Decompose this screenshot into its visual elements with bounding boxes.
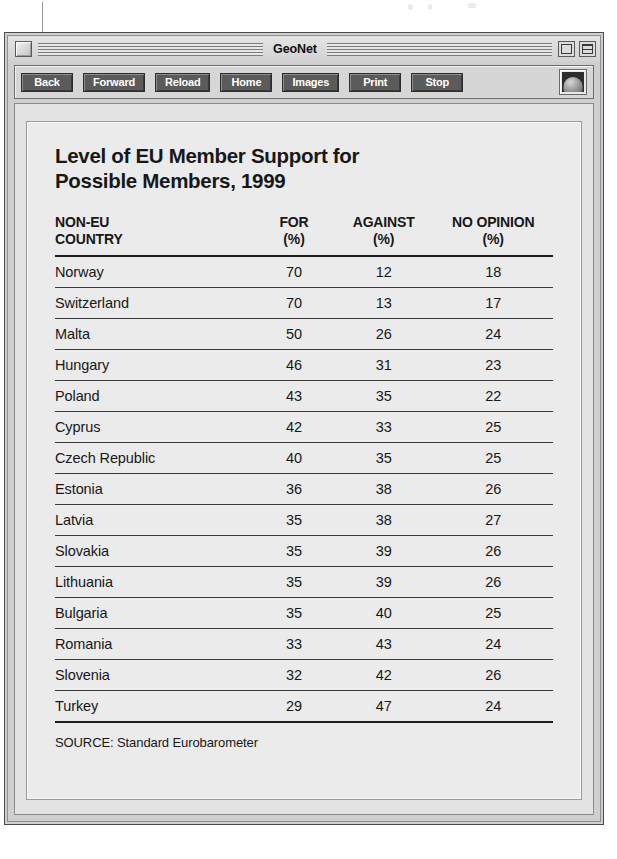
column-header-for-line2: (%) (254, 231, 334, 248)
back-button[interactable]: Back (21, 73, 73, 92)
source-note: SOURCE: Standard Eurobarometer (55, 735, 553, 750)
cell-for: 70 (254, 287, 334, 318)
cell-against: 31 (334, 349, 434, 380)
cell-no-opinion: 24 (433, 628, 553, 659)
window-titlebar[interactable]: GeoNet (8, 36, 600, 62)
cell-for: 50 (254, 318, 334, 349)
cell-for: 35 (254, 597, 334, 628)
cell-country: Estonia (55, 473, 254, 504)
cell-no-opinion: 27 (433, 504, 553, 535)
table-row: Hungary463123 (55, 349, 553, 380)
cell-for: 35 (254, 566, 334, 597)
column-header-no-opinion: NO OPINION (%) (433, 214, 553, 256)
table-row: Estonia363826 (55, 473, 553, 504)
document-card: Level of EU Member Support for Possible … (26, 121, 582, 800)
column-header-for-line1: FOR (279, 214, 308, 230)
cell-against: 39 (334, 566, 434, 597)
cell-against: 33 (334, 411, 434, 442)
cell-country: Norway (55, 256, 254, 288)
cell-against: 35 (334, 442, 434, 473)
cell-country: Bulgaria (55, 597, 254, 628)
cell-country: Switzerland (55, 287, 254, 318)
home-button[interactable]: Home (220, 73, 272, 92)
cell-no-opinion: 26 (433, 473, 553, 504)
column-header-for: FOR (%) (254, 214, 334, 256)
cell-country: Slovenia (55, 659, 254, 690)
cell-against: 39 (334, 535, 434, 566)
cell-country: Turkey (55, 690, 254, 722)
cell-against: 26 (334, 318, 434, 349)
browser-page-area: Level of EU Member Support for Possible … (14, 103, 594, 815)
table-header-row: NON-EU COUNTRY FOR (%) AGAINST (%) NO (55, 214, 553, 256)
titlebar-stripes-left (38, 43, 263, 56)
table-row: Poland433522 (55, 380, 553, 411)
cell-against: 42 (334, 659, 434, 690)
globe-dome-icon[interactable] (559, 69, 587, 95)
cell-no-opinion: 17 (433, 287, 553, 318)
cell-country: Romania (55, 628, 254, 659)
cell-for: 43 (254, 380, 334, 411)
globe-dome-icon-field (562, 72, 584, 92)
close-box-icon[interactable] (15, 41, 32, 57)
browser-toolbar: Back Forward Reload Home Images Print St… (14, 65, 594, 99)
cell-for: 35 (254, 504, 334, 535)
table-row: Romania334324 (55, 628, 553, 659)
table-row: Malta502624 (55, 318, 553, 349)
zoom-box-icon[interactable] (558, 41, 575, 57)
table-row: Norway701218 (55, 256, 553, 288)
column-header-against: AGAINST (%) (334, 214, 434, 256)
page-title: Level of EU Member Support for Possible … (55, 144, 455, 194)
support-data-table: NON-EU COUNTRY FOR (%) AGAINST (%) NO (55, 214, 553, 723)
cell-no-opinion: 26 (433, 535, 553, 566)
titlebar-stripes-right (327, 43, 552, 56)
reload-button[interactable]: Reload (155, 73, 210, 92)
table-row: Lithuania353926 (55, 566, 553, 597)
cell-for: 35 (254, 535, 334, 566)
column-header-country-line2: COUNTRY (55, 231, 254, 248)
column-header-against-line2: (%) (334, 231, 434, 248)
column-header-country-line1: NON-EU (55, 214, 109, 230)
cell-no-opinion: 26 (433, 566, 553, 597)
cell-against: 38 (334, 473, 434, 504)
scan-artifact-speck (408, 4, 413, 10)
table-row: Turkey294724 (55, 690, 553, 722)
cell-country: Latvia (55, 504, 254, 535)
cell-no-opinion: 22 (433, 380, 553, 411)
table-row: Bulgaria354025 (55, 597, 553, 628)
globe-dome-icon-shape (564, 77, 583, 92)
collapse-box-icon[interactable] (579, 41, 596, 57)
table-row: Slovakia353926 (55, 535, 553, 566)
window-title: GeoNet (269, 42, 321, 56)
cell-for: 46 (254, 349, 334, 380)
cell-for: 29 (254, 690, 334, 722)
cell-no-opinion: 25 (433, 597, 553, 628)
stop-button[interactable]: Stop (411, 73, 463, 92)
cell-against: 13 (334, 287, 434, 318)
cell-country: Poland (55, 380, 254, 411)
cell-country: Czech Republic (55, 442, 254, 473)
images-button[interactable]: Images (282, 73, 339, 92)
cell-no-opinion: 26 (433, 659, 553, 690)
page-title-line1: Level of EU Member Support for (55, 144, 359, 167)
cell-for: 36 (254, 473, 334, 504)
table-row: Latvia353827 (55, 504, 553, 535)
forward-button[interactable]: Forward (83, 73, 145, 92)
cell-country: Slovakia (55, 535, 254, 566)
cell-against: 40 (334, 597, 434, 628)
page-title-line2: Possible Members, 1999 (55, 169, 285, 192)
cell-no-opinion: 25 (433, 411, 553, 442)
cell-for: 40 (254, 442, 334, 473)
cell-country: Malta (55, 318, 254, 349)
cell-against: 47 (334, 690, 434, 722)
cell-against: 35 (334, 380, 434, 411)
cell-against: 12 (334, 256, 434, 288)
cell-for: 32 (254, 659, 334, 690)
cell-against: 38 (334, 504, 434, 535)
scan-artifact-line (42, 2, 43, 34)
cell-for: 33 (254, 628, 334, 659)
cell-for: 42 (254, 411, 334, 442)
table-row: Switzerland701317 (55, 287, 553, 318)
print-button[interactable]: Print (349, 73, 401, 92)
table-header: NON-EU COUNTRY FOR (%) AGAINST (%) NO (55, 214, 553, 256)
cell-country: Hungary (55, 349, 254, 380)
